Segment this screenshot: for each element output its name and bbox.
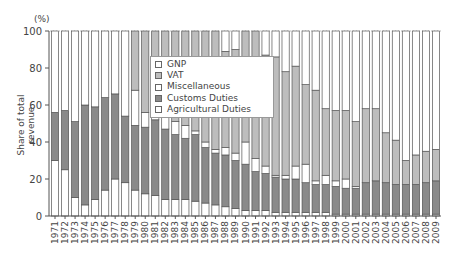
x-tick-label: 2005 <box>391 221 401 244</box>
x-tick-label: 1980 <box>140 221 150 244</box>
bar-segment <box>322 212 329 216</box>
legend-label: Miscellaneous <box>167 81 230 92</box>
bar-2001 <box>352 31 359 216</box>
bar-segment <box>392 185 399 215</box>
bar-segment <box>332 111 339 181</box>
bar-segment <box>422 151 429 182</box>
bar-segment <box>372 31 379 109</box>
bar-segment <box>71 198 78 217</box>
x-tick-label: 2009 <box>431 221 441 244</box>
x-tick-label: 1992 <box>261 221 271 244</box>
bar-segment <box>202 203 209 216</box>
bar-segment <box>412 185 419 215</box>
bar-segment <box>232 209 239 216</box>
bar-1978 <box>122 31 129 216</box>
bar-segment <box>282 175 289 179</box>
legend-item-miscellaneous: Miscellaneous <box>155 81 269 92</box>
x-tick-label: 1993 <box>271 221 281 244</box>
bar-segment <box>92 107 99 200</box>
bar-segment <box>342 31 349 111</box>
bar-segment <box>122 116 129 183</box>
bar-segment <box>342 188 349 214</box>
bar-segment <box>272 31 279 57</box>
bar-segment <box>192 135 199 202</box>
x-tick-label: 2000 <box>341 221 351 244</box>
x-tick-label: 2002 <box>361 221 371 244</box>
bar-segment <box>71 122 78 198</box>
x-tick-label: 1995 <box>291 221 301 244</box>
y-tick-label: 80 <box>29 63 42 74</box>
x-tick-label: 1972 <box>60 221 70 244</box>
bar-segment <box>122 183 129 216</box>
bar-segment <box>252 210 259 216</box>
bar-segment <box>312 31 319 90</box>
bar-segment <box>372 181 379 214</box>
x-tick-label: 1987 <box>210 221 220 244</box>
x-tick-label: 1982 <box>160 221 170 244</box>
bar-segment <box>92 199 99 216</box>
bar-segment <box>192 201 199 216</box>
x-tick-label: 1983 <box>170 221 180 244</box>
bar-segment <box>302 183 309 213</box>
x-tick-label: 2006 <box>401 221 411 244</box>
bar-segment <box>352 188 359 214</box>
bar-segment <box>432 31 439 149</box>
bar-segment <box>342 111 349 179</box>
bar-segment <box>422 183 429 214</box>
bar-segment <box>61 170 68 216</box>
bar-segment <box>242 210 249 216</box>
legend-swatch-icon <box>155 95 162 102</box>
bar-segment <box>132 90 139 125</box>
bar-segment <box>302 212 309 216</box>
legend-label: Customs Duties <box>167 93 238 104</box>
bar-1972 <box>61 31 68 216</box>
legend-item-agricultural-duties: Agricultural Duties <box>155 104 269 115</box>
bar-segment <box>81 205 88 216</box>
x-tick-label: 1988 <box>220 221 230 244</box>
bar-segment <box>292 212 299 216</box>
bar-segment <box>262 210 269 216</box>
bar-segment <box>102 31 109 98</box>
bar-segment <box>252 172 259 211</box>
bar-segment <box>372 109 379 181</box>
legend-label: VAT <box>167 70 184 81</box>
bar-segment <box>382 31 389 133</box>
bar-segment <box>222 31 229 51</box>
bar-2008 <box>422 31 429 216</box>
bar-segment <box>222 148 229 155</box>
bar-1975 <box>92 31 99 216</box>
bar-segment <box>422 31 429 151</box>
bar-segment <box>122 31 129 116</box>
bar-segment <box>102 98 109 191</box>
bar-segment <box>192 131 199 135</box>
bar-segment <box>262 31 269 55</box>
legend-label: Agricultural Duties <box>167 104 251 115</box>
bar-segment <box>412 31 419 155</box>
bar-segment <box>322 31 329 109</box>
bar-segment <box>232 161 239 209</box>
bar-segment <box>61 111 68 170</box>
bar-segment <box>222 207 229 216</box>
bar-segment <box>352 122 359 187</box>
bar-segment <box>312 212 319 216</box>
x-tick-label: 2001 <box>351 221 361 244</box>
bar-segment <box>102 190 109 216</box>
x-tick-label: 1971 <box>50 221 60 244</box>
bar-segment <box>362 183 369 214</box>
bar-segment <box>232 31 239 50</box>
legend-swatch-icon <box>155 72 162 79</box>
bar-segment <box>152 120 159 196</box>
bar-1976 <box>102 31 109 216</box>
bar-segment <box>51 112 58 160</box>
bar-segment <box>302 31 309 85</box>
stacked-bar-chart: 020406080100 197119721973197419751976197… <box>0 0 450 259</box>
bar-1980 <box>142 31 149 216</box>
bar-segment <box>242 142 249 164</box>
bar-segment <box>392 140 399 184</box>
x-tick-label: 1994 <box>281 221 291 244</box>
bar-segment <box>282 179 289 212</box>
x-tick-label: 1986 <box>200 221 210 244</box>
bar-2003 <box>372 31 379 216</box>
legend-swatch-icon <box>155 61 162 68</box>
bar-1977 <box>112 31 119 216</box>
